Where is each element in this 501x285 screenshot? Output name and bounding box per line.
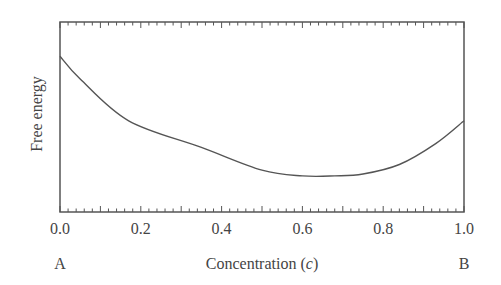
x-tick-label: 1.0 <box>454 220 474 238</box>
end-label-b: B <box>459 255 470 273</box>
x-tick-label: 0.8 <box>373 220 393 238</box>
y-axis-label: Free energy <box>28 69 46 159</box>
free-energy-chart <box>0 0 501 285</box>
x-axis-label: Concentration (c) <box>206 255 318 273</box>
axis-ticks <box>60 22 464 212</box>
free-energy-curve <box>60 56 464 176</box>
x-tick-label: 0.6 <box>292 220 312 238</box>
x-tick-label: 0.2 <box>131 220 151 238</box>
end-label-a: A <box>54 255 66 273</box>
x-tick-label: 0.4 <box>212 220 232 238</box>
plot-frame <box>60 22 464 212</box>
x-tick-label: 0.0 <box>50 220 70 238</box>
